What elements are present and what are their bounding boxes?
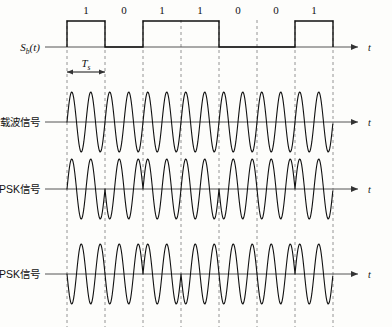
psk-signal-label: 2PSK信号 xyxy=(0,183,40,195)
bit-label: 1 xyxy=(311,4,317,16)
waveform-canvas: tttt 1011001 Ts Sb(t)载波信号2PSK信号2DPSK信号 xyxy=(0,0,392,327)
bit-label: 0 xyxy=(273,4,279,16)
bit-label-row: 1011001 xyxy=(83,4,317,16)
bit-period-marker: Ts xyxy=(67,57,105,75)
period-arrow-right-icon xyxy=(99,69,105,74)
period-arrow-left-icon xyxy=(67,69,73,74)
bit-label: 0 xyxy=(235,4,241,16)
row-label-column: Sb(t)载波信号2PSK信号2DPSK信号 xyxy=(0,41,40,280)
psk-axis-label: t xyxy=(368,184,371,195)
dpsk-signal-label: 2DPSK信号 xyxy=(0,268,40,280)
bit-label: 1 xyxy=(159,4,165,16)
period-label: Ts xyxy=(81,57,90,72)
modulation-waveform-figure: tttt 1011001 Ts Sb(t)载波信号2PSK信号2DPSK信号 xyxy=(0,0,392,327)
bit-label: 0 xyxy=(121,4,127,16)
baseband-pulse-waveform xyxy=(67,21,333,47)
carrier-axis-label: t xyxy=(368,117,371,128)
bit-label: 1 xyxy=(83,4,89,16)
baseband-axis-label: t xyxy=(368,42,371,53)
signal-rows: tttt xyxy=(45,21,371,304)
baseband-signal-label: Sb(t) xyxy=(20,41,40,56)
baseband-axis-arrow-icon xyxy=(351,44,358,50)
dpsk-axis-arrow-icon xyxy=(351,271,358,277)
carrier-axis-arrow-icon xyxy=(351,119,358,125)
bit-label: 1 xyxy=(197,4,203,16)
dpsk-axis-label: t xyxy=(368,269,371,280)
carrier-signal-label: 载波信号 xyxy=(0,116,40,128)
psk-axis-arrow-icon xyxy=(351,186,358,192)
